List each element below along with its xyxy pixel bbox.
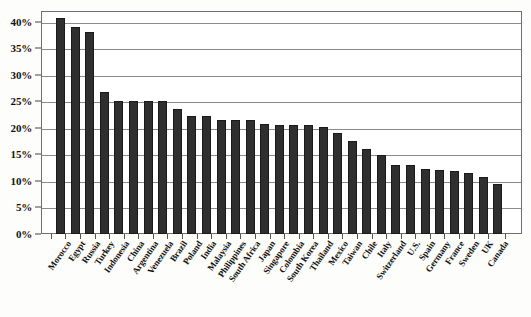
bar bbox=[260, 124, 269, 234]
bar bbox=[348, 141, 357, 234]
bar bbox=[71, 27, 80, 234]
bar bbox=[231, 120, 240, 234]
bar bbox=[377, 155, 386, 234]
bar bbox=[493, 184, 502, 234]
bar bbox=[479, 177, 488, 234]
bar bbox=[275, 125, 284, 234]
bar bbox=[435, 170, 444, 234]
bar bbox=[158, 101, 167, 234]
bar bbox=[129, 101, 138, 234]
bar bbox=[319, 127, 328, 234]
bar-chart: 0%5%10%15%20%25%30%35%40% MoroccoEgyptRu… bbox=[0, 0, 531, 317]
bar bbox=[56, 18, 65, 234]
y-tick-label: 35% bbox=[11, 42, 32, 54]
bar bbox=[362, 149, 371, 234]
bar bbox=[406, 165, 415, 234]
bar bbox=[246, 120, 255, 234]
y-axis: 0%5%10%15%20%25%30%35%40% bbox=[0, 0, 41, 245]
y-tick-label: 25% bbox=[11, 95, 32, 107]
bar bbox=[114, 101, 123, 234]
y-tick-label: 20% bbox=[11, 122, 32, 134]
y-tick-label: 0% bbox=[16, 228, 32, 240]
bar bbox=[173, 109, 182, 234]
bar bbox=[217, 120, 226, 234]
bar bbox=[100, 92, 109, 234]
y-tick-label: 40% bbox=[11, 16, 32, 28]
bar bbox=[85, 32, 94, 234]
y-tick-label: 5% bbox=[16, 201, 32, 213]
bar bbox=[202, 116, 211, 234]
bar bbox=[464, 173, 473, 234]
y-tick-label: 10% bbox=[11, 175, 32, 187]
bar bbox=[304, 125, 313, 234]
bar bbox=[421, 169, 430, 234]
y-tick-label: 30% bbox=[11, 69, 32, 81]
bar bbox=[450, 171, 459, 234]
bar bbox=[333, 133, 342, 234]
x-axis-labels: MoroccoEgyptRussiaTurkeyIndonesiaChinaAr… bbox=[41, 239, 522, 317]
bar bbox=[391, 165, 400, 234]
bar bbox=[289, 125, 298, 234]
y-tick-label: 15% bbox=[11, 148, 32, 160]
bars-layer bbox=[41, 11, 522, 234]
bar bbox=[144, 101, 153, 234]
bar bbox=[187, 116, 196, 234]
